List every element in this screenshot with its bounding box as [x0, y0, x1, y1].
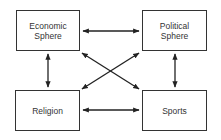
node-label: Religion [32, 106, 63, 116]
node-religion: Religion [15, 90, 80, 131]
node-label: Sports [162, 106, 187, 116]
node-economic-sphere: Economic Sphere [16, 10, 80, 51]
node-label: Economic Sphere [29, 21, 66, 41]
node-sports: Sports [142, 90, 207, 131]
node-political-sphere: Political Sphere [142, 10, 207, 51]
node-label: Political Sphere [160, 21, 189, 41]
